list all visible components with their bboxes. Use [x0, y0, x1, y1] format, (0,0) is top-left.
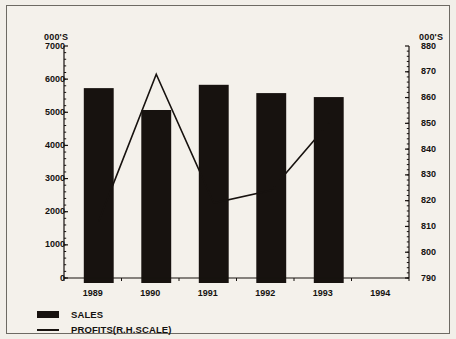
legend-swatch-profits	[37, 329, 63, 331]
axes	[7, 6, 451, 335]
legend-label-profits: PROFITS(R.H.SCALE)	[71, 324, 172, 335]
chart-frame: 000'S 000'S 7000600050004000300020001000…	[6, 5, 450, 334]
axis-lines	[64, 46, 409, 281]
chart-legend: SALES PROFITS(R.H.SCALE)	[37, 307, 172, 337]
legend-item-sales: SALES	[37, 307, 172, 322]
filled-bar-icon	[37, 311, 59, 318]
legend-item-profits: PROFITS(R.H.SCALE)	[37, 322, 172, 337]
chart-figure: 000'S 000'S 7000600050004000300020001000…	[0, 0, 456, 339]
legend-swatch-sales	[37, 311, 63, 318]
line-icon	[37, 329, 59, 331]
legend-label-sales: SALES	[71, 309, 103, 320]
